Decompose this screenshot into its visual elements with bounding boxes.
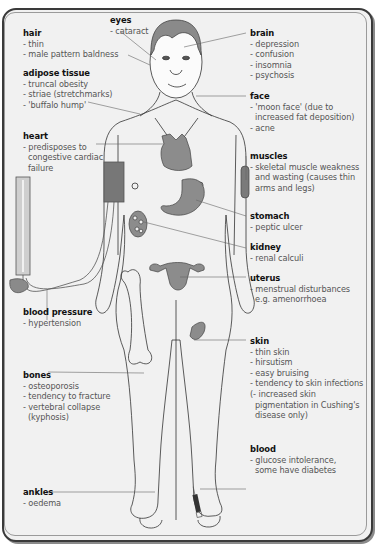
uterus-shape [150, 263, 205, 291]
label-stomach: stomach - peptic ulcer [250, 211, 303, 232]
label-blood: blood - glucose intolerance, some have d… [250, 444, 336, 476]
label-adipose-tissue: adipose tissue - truncal obesity - stria… [23, 68, 112, 110]
sphygmomanometer [10, 162, 124, 293]
label-eyes: eyes - cataract [110, 15, 148, 36]
organs [129, 134, 249, 339]
syringe-icon [191, 486, 202, 517]
label-blood-pressure: blood pressure - hypertension [23, 307, 92, 328]
bp-cuff [104, 162, 124, 202]
bp-bulb [10, 279, 29, 293]
kidney-shape [129, 211, 147, 237]
label-face: face - 'moon face' (due to increased fat… [250, 91, 354, 133]
label-hair: hair - thin - male pattern baldness [23, 28, 118, 60]
upper-arm-muscle [241, 166, 249, 198]
label-bones: bones - osteoporosis - tendency to fract… [23, 370, 110, 423]
label-kidney: kidney - renal calculi [250, 242, 303, 263]
stomach-shape [161, 179, 204, 215]
label-ankles: ankles - oedema [23, 487, 61, 508]
label-muscles: muscles - skeletal muscle weakness and w… [250, 151, 359, 193]
label-heart: heart - predisposes to congestive cardia… [23, 131, 103, 173]
label-brain: brain - depression - confusion - insomni… [250, 28, 299, 81]
bruise-shape [190, 322, 205, 339]
femur [121, 270, 152, 364]
label-uterus: uterus - menstrual disturbances e.g. ame… [250, 273, 350, 305]
heart-shape [161, 134, 192, 171]
label-skin: skin - thin skin - hirsutism - easy brui… [250, 336, 363, 421]
